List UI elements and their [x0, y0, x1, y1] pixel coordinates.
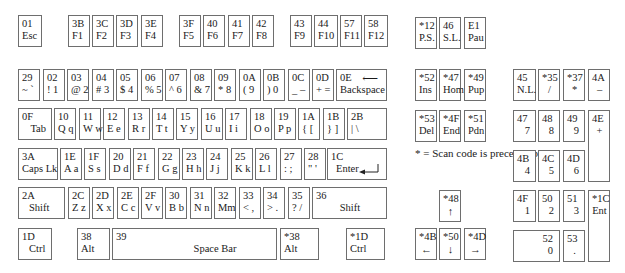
key-f12[interactable]: 58F12	[364, 15, 388, 47]
key-v[interactable]: 2FV v	[141, 187, 163, 219]
key-right-bracket[interactable]: 1B} ]	[323, 108, 345, 140]
key-f6[interactable]: 40F6	[203, 15, 225, 47]
key-quote[interactable]: 28" '	[304, 148, 326, 180]
key-minus[interactable]: 0C_ –	[288, 69, 310, 101]
key-r[interactable]: 13R r	[128, 108, 150, 140]
key-f2[interactable]: 3CF2	[92, 15, 114, 47]
key-kp-minus[interactable]: 4A–	[588, 69, 610, 101]
key-2[interactable]: 03@ 2	[67, 69, 89, 101]
key-3[interactable]: 04# 3	[92, 69, 114, 101]
key-c[interactable]: 2EC c	[117, 187, 139, 219]
key-esc[interactable]: 01Esc	[18, 15, 42, 47]
key-f9[interactable]: 43F9	[290, 15, 312, 47]
key-page-up[interactable]: *49Pup	[464, 69, 486, 101]
key-l[interactable]: 26L l	[255, 148, 277, 180]
key-comma[interactable]: 33< ,	[239, 187, 261, 219]
key-kp-9[interactable]: 499	[563, 110, 585, 142]
key-tab[interactable]: 0FTab	[18, 108, 52, 140]
key-f3[interactable]: 3DF3	[116, 15, 138, 47]
key-m[interactable]: 32Mm	[214, 187, 236, 219]
key-kp-divide[interactable]: *35/	[538, 69, 560, 101]
key-left-ctrl[interactable]: 1DCtrl	[18, 228, 52, 260]
key-9[interactable]: 0A( 9	[239, 69, 261, 101]
key-backslash[interactable]: 2B| \	[347, 108, 387, 140]
key-period[interactable]: 34> .	[263, 187, 285, 219]
key-space[interactable]: 39Space Bar	[112, 228, 277, 260]
key-kp-5[interactable]: 4C5	[538, 150, 560, 182]
key-left-alt[interactable]: 38Alt	[77, 228, 110, 260]
key-kp-0[interactable]: 520	[513, 230, 560, 262]
key-backspace[interactable]: 0E⟵Backspace	[336, 69, 387, 101]
key-f5[interactable]: 3FF5	[179, 15, 201, 47]
key-kp-3[interactable]: 513	[563, 190, 585, 222]
key-0[interactable]: 0B) 0	[263, 69, 285, 101]
key-equals[interactable]: 0D+ =	[312, 69, 334, 101]
key-right-ctrl[interactable]: *1DCtrl	[346, 228, 385, 260]
key-print-screen[interactable]: *12P.S.	[415, 17, 437, 49]
key-8[interactable]: 09* 8	[214, 69, 236, 101]
key-f[interactable]: 21F f	[133, 148, 155, 180]
key-s[interactable]: 1FS s	[84, 148, 106, 180]
key-caps-lock[interactable]: 3ACaps Lk	[18, 148, 58, 180]
key-pause[interactable]: E1Pau	[464, 17, 486, 49]
key-g[interactable]: 22G g	[158, 148, 180, 180]
key-f1[interactable]: 3BF1	[68, 15, 90, 47]
key-left-bracket[interactable]: 1A{ [	[298, 108, 320, 140]
key-5[interactable]: 06% 5	[141, 69, 163, 101]
key-right-alt[interactable]: *38Alt	[280, 228, 319, 260]
key-delete[interactable]: *53Del	[415, 110, 437, 142]
key-q[interactable]: 10Q q	[54, 108, 76, 140]
key-f10[interactable]: 44F10	[314, 15, 338, 47]
key-arrow-up[interactable]: *48↑	[439, 190, 461, 222]
key-y[interactable]: 15Y y	[176, 108, 198, 140]
key-kp-multiply[interactable]: *37*	[563, 69, 585, 101]
key-e[interactable]: 12E e	[103, 108, 125, 140]
key-u[interactable]: 16U u	[201, 108, 223, 140]
key-kp-8[interactable]: 488	[538, 110, 560, 142]
key-insert[interactable]: *52Ins	[415, 69, 437, 101]
key-a[interactable]: 1EA a	[60, 148, 82, 180]
key-o[interactable]: 18O o	[250, 108, 272, 140]
key-slash[interactable]: 35? /	[288, 187, 310, 219]
key-kp-1[interactable]: 4F1	[513, 190, 536, 222]
key-arrow-left[interactable]: *4B←	[415, 228, 437, 260]
key-d[interactable]: 20D d	[109, 148, 131, 180]
key-left-shift[interactable]: 2AShift	[18, 187, 65, 219]
key-grave[interactable]: 29~ `	[18, 69, 40, 101]
key-f7[interactable]: 41F7	[228, 15, 250, 47]
key-kp-2[interactable]: 502	[538, 190, 560, 222]
key-w[interactable]: 11W w	[79, 108, 101, 140]
key-t[interactable]: 14T t	[152, 108, 174, 140]
key-j[interactable]: 24J j	[206, 148, 228, 180]
key-1[interactable]: 02! 1	[43, 69, 65, 101]
key-end[interactable]: *4FEnd	[439, 110, 461, 142]
key-p[interactable]: 19P p	[274, 108, 296, 140]
key-semicolon[interactable]: 27: ;	[280, 148, 302, 180]
key-x[interactable]: 2DX x	[92, 187, 114, 219]
key-k[interactable]: 25K k	[231, 148, 253, 180]
key-f4[interactable]: 3EF4	[141, 15, 163, 47]
key-kp-enter[interactable]: *1CEnt	[588, 190, 610, 262]
key-4[interactable]: 05$ 4	[116, 69, 138, 101]
key-enter[interactable]: 1CEnter	[327, 148, 387, 180]
key-n[interactable]: 31N n	[190, 187, 212, 219]
key-home[interactable]: *47Hom	[439, 69, 461, 101]
key-arrow-right[interactable]: *4D→	[464, 228, 486, 260]
key-kp-7[interactable]: 477	[513, 110, 536, 142]
key-i[interactable]: 17I i	[225, 108, 247, 140]
key-f11[interactable]: 57F11	[340, 15, 362, 47]
key-6[interactable]: 07^ 6	[165, 69, 187, 101]
key-page-down[interactable]: *51Pdn	[464, 110, 486, 142]
key-kp-plus[interactable]: 4E+	[588, 110, 610, 182]
key-7[interactable]: 08& 7	[190, 69, 212, 101]
key-kp-4[interactable]: 4B4	[513, 150, 536, 182]
key-z[interactable]: 2CZ z	[68, 187, 90, 219]
key-kp-decimal[interactable]: 53.	[563, 230, 585, 262]
key-right-shift[interactable]: 36Shift	[312, 187, 387, 219]
key-arrow-down[interactable]: *50↓	[439, 228, 461, 260]
key-kp-6[interactable]: 4D6	[563, 150, 585, 182]
key-scroll-lock[interactable]: 46S.L.	[439, 17, 461, 49]
key-h[interactable]: 23H h	[182, 148, 204, 180]
key-f8[interactable]: 42F8	[252, 15, 274, 47]
key-b[interactable]: 30B b	[165, 187, 187, 219]
